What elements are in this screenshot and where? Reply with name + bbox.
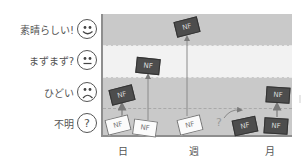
- nf-card-unknown-month-2: NF: [263, 117, 288, 135]
- nf-card-unknown-2: NF: [132, 118, 158, 137]
- uncertain-mark: ?: [216, 116, 222, 129]
- x-label-day: 日: [118, 143, 128, 158]
- nf-card-okay-day: NF: [135, 57, 161, 75]
- x-label-week: 週: [189, 143, 199, 158]
- arrows-layer: [0, 0, 308, 166]
- nf-card-bad-month: NF: [265, 86, 290, 104]
- x-label-month: 月: [265, 143, 275, 158]
